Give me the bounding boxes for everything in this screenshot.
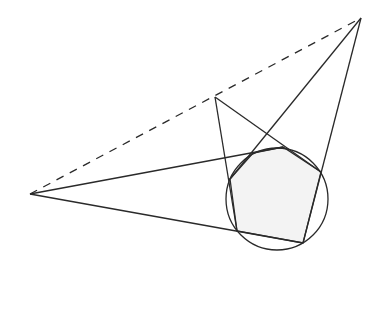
- geometry-diagram: [0, 0, 384, 312]
- line-top-apex-to-p5: [303, 18, 361, 243]
- construction-lines: [30, 18, 361, 243]
- line-middle-apex-to-p6: [215, 97, 237, 231]
